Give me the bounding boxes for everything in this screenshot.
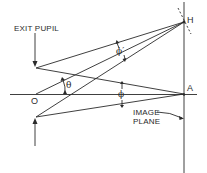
ray-bottom-to-a xyxy=(36,94,184,117)
arrowhead-up xyxy=(33,118,38,124)
optics-diagram: EXIT PUPIL H A O θ ϕ ϕ′ IMAGE PLANE xyxy=(0,0,207,173)
exit-pupil-label: EXIT PUPIL xyxy=(14,24,59,33)
phi-prime-label: ϕ′ xyxy=(116,47,125,56)
theta-label: θ xyxy=(66,81,72,90)
image-plane-label-line1: IMAGE xyxy=(133,108,160,117)
point-o-label: O xyxy=(31,97,38,106)
arrowhead-down xyxy=(33,61,38,67)
ray-bottom-to-h xyxy=(36,22,184,117)
point-h-dot xyxy=(183,21,186,24)
phi-label: ϕ xyxy=(118,90,124,99)
ray-top-to-a xyxy=(36,68,184,94)
phi-arrow-bottom xyxy=(120,105,124,108)
point-a-label: A xyxy=(187,84,193,93)
point-h-label: H xyxy=(187,16,194,25)
leader-arrowhead xyxy=(179,116,184,120)
image-plane-label-line2: PLANE xyxy=(133,117,160,126)
theta-arrow-bottom xyxy=(63,90,67,94)
point-a-dot xyxy=(183,93,185,95)
image-plane-leader xyxy=(157,112,182,118)
